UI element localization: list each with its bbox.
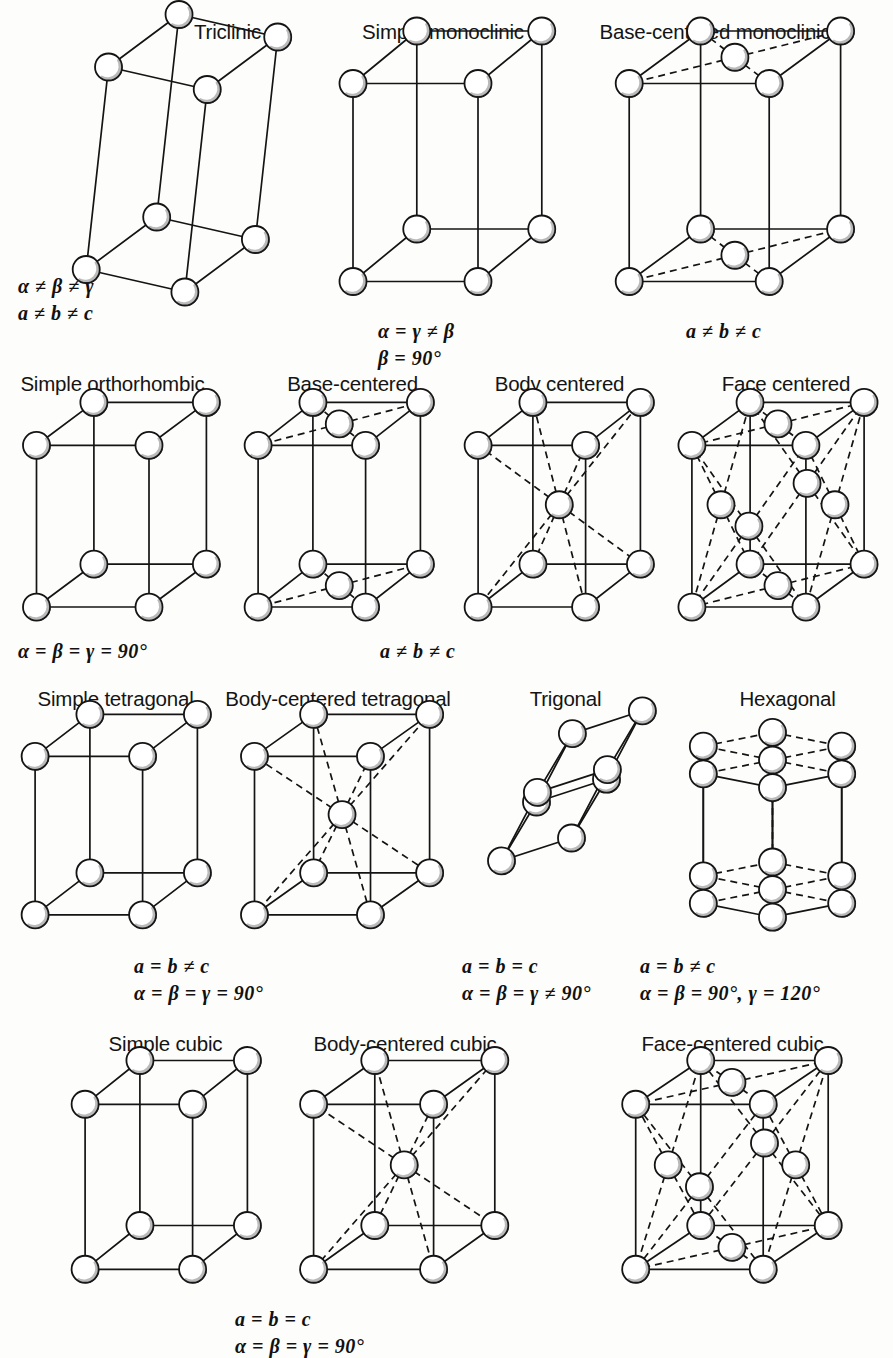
lattice-atom [166,1,193,28]
lattice-caption-trigonal-1: α = β = γ ≠ 90° [462,982,591,1005]
lattice-diagram-trigonal [470,712,645,952]
lattice-atom [245,432,272,459]
lattice-atom [782,1151,809,1178]
lattice-atom [80,551,107,578]
lattice-atom [687,1212,714,1239]
lattice-atom [815,1047,842,1074]
lattice-atom [707,491,734,518]
lattice-atom [519,551,546,578]
lattice-atom [827,216,854,243]
lattice-atom [416,701,443,728]
lattice-atom [792,432,819,459]
lattice-atom [616,70,643,97]
lattice-atom [171,279,198,306]
lattice-atom [465,594,492,621]
lattice-atom [759,719,786,746]
lattice-diagram-base-centered-monoclinic [590,28,870,328]
lattice-atom [95,54,122,81]
lattice-atom [622,1091,649,1118]
lattice-diagram-base-centered-orthorhombic [228,400,443,645]
lattice-diagram-body-centered-cubic [280,1058,520,1308]
lattice-atom [759,774,786,801]
lattice-atom [264,24,291,51]
lattice-title-hexagonal: Hexagonal [670,687,893,711]
lattice-atom [194,76,221,103]
lattice-atom [721,242,748,269]
lattice-atom [193,551,220,578]
lattice-atom [851,389,878,416]
lattice-atom [759,747,786,774]
lattice-atom [326,410,353,437]
lattice-atom [361,1047,388,1074]
lattice-title-simple-orthorhombic: Simple orthorhombic [0,372,225,396]
lattice-caption-base-centered-monoclinic-0: a ≠ b ≠ c [686,320,761,343]
lattice-atom [528,216,555,243]
lattice-diagram-face-centered-orthorhombic [660,400,888,645]
lattice-atom [655,1151,682,1178]
lattice-atom [594,756,621,783]
lattice-atom [465,70,492,97]
lattice-atom [326,572,353,599]
lattice-atom [22,743,49,770]
lattice-atom [622,1256,649,1283]
lattice-atom [686,1173,713,1200]
lattice-atom [718,1234,745,1261]
lattice-atom [300,1091,327,1118]
lattice-atom [234,1047,261,1074]
lattice-atom [572,432,599,459]
lattice-atom [300,1256,327,1283]
lattice-atom [546,491,573,518]
lattice-atom [687,18,714,45]
lattice-atom [126,1047,153,1074]
lattice-atom [391,1151,418,1178]
lattice-atom [299,551,326,578]
lattice-atom [184,701,211,728]
lattice-atom [407,389,434,416]
lattice-atom [126,1212,153,1239]
lattice-atom [751,1130,778,1157]
lattice-atom [299,389,326,416]
lattice-caption-body-centered-tetragonal-0: a = b ≠ c [134,955,210,978]
lattice-diagram-hexagonal [655,712,890,952]
lattice-atom [352,432,379,459]
lattice-atom [234,1212,261,1239]
lattice-atom [821,491,848,518]
lattice-diagram-simple-monoclinic [318,28,568,328]
lattice-caption-simple-orthorhombic-0: α = β = γ = 90° [18,640,147,663]
lattice-atom [678,594,705,621]
lattice-atom [420,1091,447,1118]
lattice-caption-triclinic-0: α ≠ β ≠ γ [18,275,94,298]
lattice-caption-simple-monoclinic-1: β = 90° [378,347,441,370]
lattice-atom [735,513,762,540]
lattice-atom [481,1212,508,1239]
lattice-atom [828,862,855,889]
lattice-atom [76,859,103,886]
lattice-atom [23,594,50,621]
lattice-atom [407,551,434,578]
lattice-atom [851,551,878,578]
lattice-atom [792,594,819,621]
lattice-atom [756,70,783,97]
lattice-atom [764,572,791,599]
lattice-atom [143,204,170,231]
lattice-atom [828,890,855,917]
lattice-atom [403,18,430,45]
lattice-caption-body-centered-cubic-1: α = β = γ = 90° [235,1335,364,1358]
lattice-atom [718,1069,745,1096]
lattice-atom [750,1256,777,1283]
lattice-atom [687,1047,714,1074]
lattice-atom [687,216,714,243]
lattice-atom [794,470,821,497]
lattice-atom [329,801,356,828]
lattice-atom [690,760,717,787]
lattice-diagram-simple-cubic [55,1058,270,1308]
lattice-diagram-body-centered-orthorhombic [448,400,663,645]
lattice-caption-body-centered-tetragonal-1: α = β = γ = 90° [134,982,263,1005]
lattice-atom [827,18,854,45]
lattice-caption-hexagonal-0: a = b ≠ c [640,955,716,978]
lattice-atom [340,70,367,97]
lattice-caption-body-centered-cubic-0: a = b = c [235,1308,311,1331]
lattice-atom [627,389,654,416]
lattice-diagram-body-centered-tetragonal [222,712,454,952]
lattice-caption-triclinic-1: a ≠ b ≠ c [18,302,93,325]
